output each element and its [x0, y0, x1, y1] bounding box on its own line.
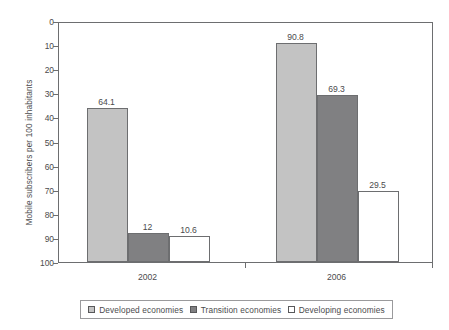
x-tick-label: 2002	[138, 272, 157, 282]
bar-value-label: 90.8	[287, 32, 304, 42]
bar-value-label: 69.3	[328, 84, 345, 94]
x-tick-mark	[245, 263, 246, 268]
y-axis-title: Mobile subscribers per 100 inhabitants	[25, 53, 34, 253]
legend-item-developed[interactable]: Developed economies	[88, 305, 183, 315]
y-tick-label: 90	[30, 234, 54, 244]
y-tick-label: 40	[30, 113, 54, 123]
y-tick-label: 20	[30, 65, 54, 75]
bar[interactable]	[87, 108, 128, 262]
y-tick-label: 0	[30, 17, 54, 27]
legend-item-developing[interactable]: Developing economies	[288, 305, 385, 315]
chart-legend: Developed economies Transition economies…	[80, 300, 393, 319]
bar-value-label: 29.5	[369, 180, 386, 190]
legend-swatch-icon-developing	[288, 306, 295, 313]
legend-swatch-icon-transition	[190, 306, 197, 313]
y-tick-label: 100	[30, 258, 54, 268]
x-tick-mark	[432, 263, 433, 268]
bar[interactable]	[358, 191, 399, 262]
plot-area	[58, 22, 433, 263]
bar-chart: Mobile subscribers per 100 inhabitants 1…	[0, 0, 449, 330]
y-tick-label: 80	[30, 210, 54, 220]
bar[interactable]	[128, 233, 169, 262]
legend-swatch-icon-developed	[88, 306, 95, 313]
bar[interactable]	[317, 95, 358, 262]
bar-value-label: 12	[143, 222, 153, 232]
x-tick-label: 2006	[327, 272, 346, 282]
y-tick-label: 50	[30, 138, 54, 148]
y-tick-label: 70	[30, 186, 54, 196]
legend-item-transition[interactable]: Transition economies	[190, 305, 282, 315]
bar[interactable]	[169, 236, 210, 262]
bar-value-label: 64.1	[98, 97, 115, 107]
legend-label-developed: Developed economies	[99, 305, 183, 315]
y-tick-label: 10	[30, 41, 54, 51]
legend-label-developing: Developing economies	[299, 305, 385, 315]
y-tick-mark	[53, 263, 58, 264]
bar[interactable]	[276, 43, 317, 262]
bar-value-label: 10.6	[180, 225, 197, 235]
y-tick-label: 60	[30, 162, 54, 172]
y-tick-label: 30	[30, 89, 54, 99]
legend-label-transition: Transition economies	[201, 305, 282, 315]
